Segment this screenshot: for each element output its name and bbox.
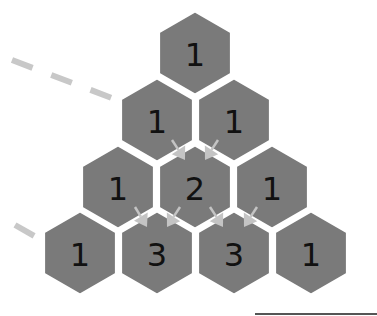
dashed-line-0 [12, 60, 117, 100]
hex-cell: 1 [275, 211, 348, 295]
hex-value: 3 [147, 236, 167, 274]
hexagon-grid: 1111211331 [44, 11, 348, 295]
hex-cell: 1 [44, 211, 117, 295]
hex-value: 2 [185, 170, 205, 208]
hex-value: 1 [147, 103, 167, 141]
hex-value: 3 [224, 236, 244, 274]
hex-cell: 1 [159, 11, 232, 95]
hex-value: 1 [224, 103, 244, 141]
hex-value: 1 [301, 236, 321, 274]
dashed-line-1 [15, 225, 36, 237]
hex-value: 1 [262, 170, 282, 208]
hex-cell: 3 [121, 211, 194, 295]
hex-value: 1 [185, 36, 205, 74]
hex-value: 1 [108, 170, 128, 208]
hex-value: 1 [70, 236, 90, 274]
pascal-hex-diagram: 1111211331 [0, 0, 377, 316]
hex-cell: 3 [198, 211, 271, 295]
